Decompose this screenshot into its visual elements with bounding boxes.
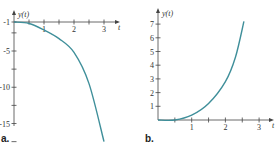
panel-label: b. [145,133,154,144]
y-tick-label: -10 [0,83,10,92]
y-axis-title: y(t) [161,9,173,18]
x-tick-label: 1 [190,123,194,132]
y-tick-label: 4 [150,61,154,70]
y-axis-title: y(t) [17,10,29,19]
y-axis-arrow-icon [12,10,16,15]
panel-a-chart: 123t-1-5-10-15y(t)a. [0,10,121,144]
y-tick-label: -1 [3,18,10,27]
panel-b-chart: 123t1234567y(t)b. [145,8,275,144]
y-tick-label: 3 [150,75,154,84]
y-tick-label: 2 [150,89,154,98]
data-curve [14,22,104,142]
y-tick-label: 5 [150,48,154,57]
figure: 123t-1-5-10-15y(t)a. 123t1234567y(t)b. [0,0,280,150]
panel-label: a. [1,133,10,144]
y-tick-label: 7 [150,20,154,29]
y-tick-label: -15 [0,120,10,129]
x-axis-title: t [118,23,121,32]
x-tick-label: 2 [223,123,227,132]
y-tick-label: 1 [150,102,154,111]
x-tick-label: 3 [257,123,261,132]
y-tick-label: -5 [3,47,10,56]
y-axis-arrow-icon [156,8,160,13]
data-curve [158,21,244,120]
x-tick-label: 2 [72,25,76,34]
x-tick-label: 3 [102,25,106,34]
y-tick-label: 6 [150,34,154,43]
x-axis-title: t [272,121,275,130]
